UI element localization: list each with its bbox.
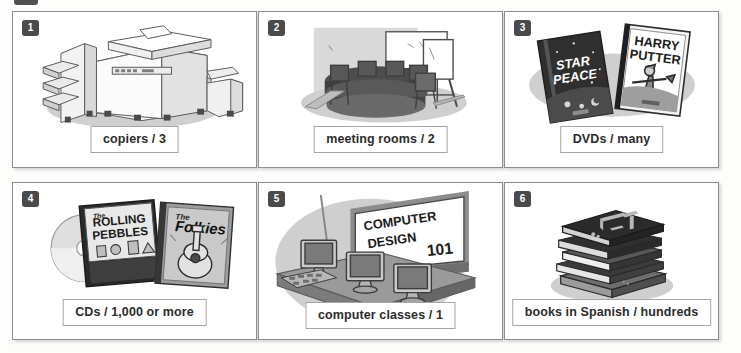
panel-number-badge: 5 [268, 191, 285, 207]
panel-number-badge: 1 [22, 20, 39, 36]
panel-4-cds[interactable]: 4 The ROLLING PEBBLES [12, 182, 257, 340]
panel-number-badge: 2 [268, 20, 285, 36]
panel-1-copiers[interactable]: 1 [12, 11, 257, 168]
panel-5-label: computer classes / 1 [305, 302, 456, 329]
panel-number-badge: 3 [514, 20, 531, 36]
board-line-3: 101 [426, 239, 454, 259]
picture-panel-grid: 1 [0, 0, 741, 353]
panel-3-dvds[interactable]: 3 STAR PEACE [504, 11, 719, 168]
panel-6-label: books in Spanish / hundreds [512, 299, 712, 326]
panel-6-books-spanish[interactable]: 6 [504, 182, 719, 340]
panel-number-badge: 6 [514, 191, 531, 207]
panel-5-computer-classes[interactable]: 5 COMPUTER DESIGN 101 [258, 182, 503, 340]
panel-3-label: DVDs / many [560, 126, 664, 153]
panel-1-label: copiers / 3 [90, 126, 179, 153]
panel-4-label: CDs / 1,000 or more [62, 299, 207, 326]
panel-2-meeting-rooms[interactable]: 2 [258, 11, 503, 168]
panel-number-badge: 4 [22, 191, 39, 207]
panel-2-label: meeting rooms / 2 [313, 126, 448, 153]
